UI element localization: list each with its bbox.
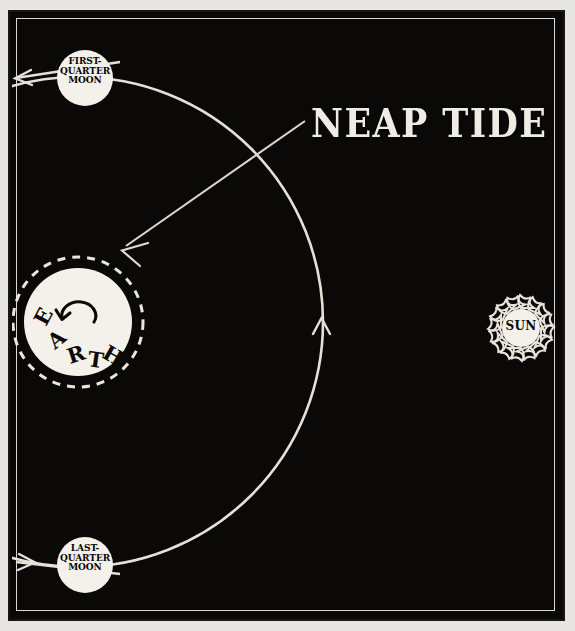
neap-tide-title: NEAP TIDE (311, 100, 547, 146)
orbit-direction-arrowhead (313, 318, 330, 334)
first-quarter-moon-label-line-3: MOON (53, 76, 117, 86)
diagram-artwork: E A R T H (0, 0, 575, 631)
neap-tide-leader-line (126, 121, 305, 246)
last-quarter-moon-label: LAST- QUARTER MOON (53, 544, 117, 573)
first-quarter-moon-label: FIRST- QUARTER MOON (53, 57, 117, 86)
sun-label: SUN (503, 319, 539, 333)
neap-tide-leader-arrowhead (122, 243, 148, 266)
figure-root: E A R T H (0, 0, 575, 631)
last-quarter-moon-label-line-3: MOON (53, 563, 117, 573)
